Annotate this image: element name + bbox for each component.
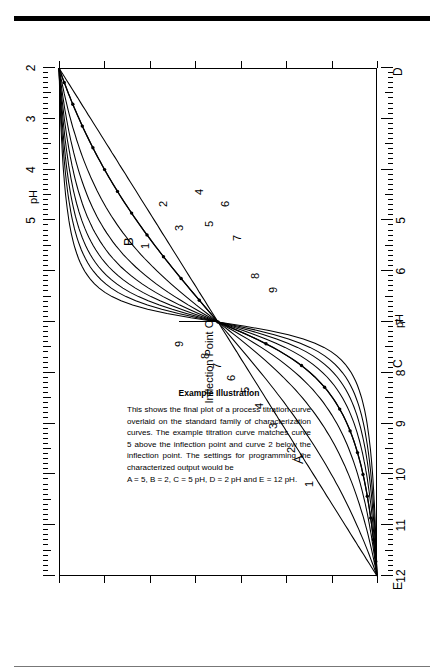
marker-point-c: C	[391, 359, 405, 368]
curve-label-9-lower: 9	[268, 287, 279, 293]
axis-title-top: pH	[27, 190, 39, 204]
curve-label-6-lower: 6	[220, 201, 231, 207]
data-point	[361, 473, 364, 476]
data-point	[300, 364, 303, 367]
axis-ticks-right	[59, 56, 377, 68]
caption-body-text: This shows the final plot of a process t…	[127, 405, 311, 472]
caption-heading: Example Illustration	[127, 388, 311, 398]
data-point	[372, 538, 375, 541]
page-rule-bottom	[14, 666, 430, 667]
axis-title-bottom: pH	[393, 314, 405, 328]
data-point	[145, 233, 148, 236]
curve-label-8-lower: 8	[250, 273, 261, 279]
curve-label-5-lower: 5	[204, 221, 215, 227]
data-point	[323, 386, 326, 389]
marker-point-d: D	[391, 67, 405, 76]
data-point	[264, 342, 267, 345]
curve-family	[59, 68, 377, 576]
curve-label-4-lower: 4	[194, 189, 205, 195]
data-point	[366, 495, 369, 498]
data-point	[63, 81, 66, 84]
data-point	[130, 211, 133, 214]
curve-label-6-upper: 6	[226, 375, 237, 381]
data-point	[91, 146, 94, 149]
data-point	[338, 407, 341, 410]
curve-label-2-lower: 2	[158, 201, 169, 207]
data-point	[369, 516, 372, 519]
data-point	[116, 190, 119, 193]
data-point	[81, 124, 84, 127]
data-point	[356, 451, 359, 454]
plot-area: 12111098765 5432 pH pH E C D A B 1234567…	[59, 68, 377, 576]
axis-ticks-bottom	[377, 68, 393, 576]
data-point	[162, 255, 165, 258]
axis-ticks-left	[59, 576, 377, 588]
data-point	[348, 429, 351, 432]
figure-stage: 12111098765 5432 pH pH E C D A B 1234567…	[31, 36, 413, 636]
curve-label-1-lower: 1	[140, 243, 151, 249]
page-rule-top	[14, 16, 430, 21]
data-point	[71, 103, 74, 106]
curve-label-9-upper: 9	[174, 341, 185, 347]
curve-label-3-lower: 3	[174, 225, 185, 231]
data-point	[374, 560, 377, 563]
data-point	[103, 168, 106, 171]
data-point	[198, 299, 201, 302]
data-point	[216, 320, 219, 323]
curve-label-7-lower: 7	[232, 235, 243, 241]
axis-ticks-top	[43, 68, 59, 576]
marker-point-e: E	[391, 582, 405, 590]
caption-block: Example Illustration This shows the fina…	[127, 388, 311, 485]
data-point	[179, 277, 182, 280]
caption-body: This shows the final plot of a process t…	[127, 404, 311, 485]
caption-settings: A = 5, B = 2, C = 5 pH, D = 2 pH and E =…	[127, 474, 311, 486]
